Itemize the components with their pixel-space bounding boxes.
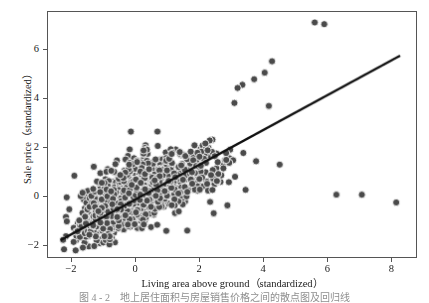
y-tick-mark — [43, 147, 47, 148]
x-tick-label: 6 — [312, 263, 342, 275]
y-tick-mark — [43, 98, 47, 99]
x-tick-label: 8 — [376, 263, 406, 275]
x-tick-mark — [263, 258, 264, 262]
plot-area — [47, 11, 417, 258]
figure-caption: 图 4 - 2 地上居住面积与房屋销售价格之间的散点图及回归线 — [0, 292, 429, 303]
figure-container: −202468 −20246 Living area above ground（… — [0, 0, 429, 303]
y-axis-label: Sale price（standardized） — [19, 17, 34, 237]
x-tick-label: −2 — [56, 263, 86, 275]
y-tick-mark — [43, 196, 47, 197]
x-tick-mark — [391, 258, 392, 262]
x-tick-label: 4 — [248, 263, 278, 275]
x-tick-mark — [199, 258, 200, 262]
figure-caption-clip: 图 4 - 2 地上居住面积与房屋销售价格之间的散点图及回归线 — [0, 292, 429, 303]
x-axis-label: Living area above ground（standardized） — [47, 275, 417, 290]
y-tick-mark — [43, 49, 47, 50]
y-tick-mark — [43, 245, 47, 246]
x-tick-mark — [71, 258, 72, 262]
y-tick-label: −2 — [19, 239, 39, 251]
x-tick-mark — [135, 258, 136, 262]
x-tick-mark — [327, 258, 328, 262]
scatter-plot-canvas — [48, 12, 416, 257]
x-tick-label: 2 — [184, 263, 214, 275]
x-tick-label: 0 — [120, 263, 150, 275]
